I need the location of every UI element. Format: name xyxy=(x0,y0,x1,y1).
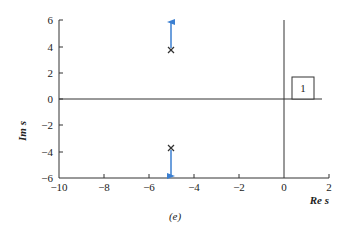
x-tick-label: −8 xyxy=(98,181,110,193)
y-tick-label: 6 xyxy=(48,14,54,26)
boxed-label: 1 xyxy=(292,77,314,99)
x-tick-label: 2 xyxy=(326,181,332,193)
x-ticks: −10 −8 −6 −4 −2 0 2 xyxy=(50,174,331,193)
x-tick-label: −2 xyxy=(233,181,245,193)
y-tick-label: 2 xyxy=(48,67,54,79)
x-tick-label: −4 xyxy=(188,181,200,193)
y-axis-label: Im s xyxy=(16,121,28,142)
y-tick-label: −4 xyxy=(41,146,53,158)
y-tick-label: 4 xyxy=(48,41,54,53)
root-locus-chart: 6 4 2 0 −2 −4 −6 −10 −8 −6 −4 −2 0 2 1 xyxy=(0,0,347,228)
y-tick-label: −2 xyxy=(41,119,53,131)
x-tick-label: −6 xyxy=(143,181,155,193)
figure-caption: (e) xyxy=(169,210,182,223)
x-tick-label: 0 xyxy=(281,181,287,193)
label-text: 1 xyxy=(300,82,306,94)
x-tick-label: −10 xyxy=(50,181,68,193)
x-axis-label: Re s xyxy=(309,194,329,206)
y-tick-label: 0 xyxy=(48,93,54,105)
